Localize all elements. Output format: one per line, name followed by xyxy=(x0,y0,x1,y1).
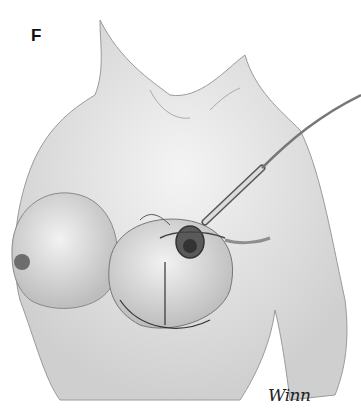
torso-drawing xyxy=(0,0,361,420)
medical-illustration: F Winn xyxy=(0,0,361,420)
nipple-left xyxy=(14,254,30,270)
artist-signature: Winn xyxy=(268,385,311,405)
panel-label: F xyxy=(31,26,41,46)
